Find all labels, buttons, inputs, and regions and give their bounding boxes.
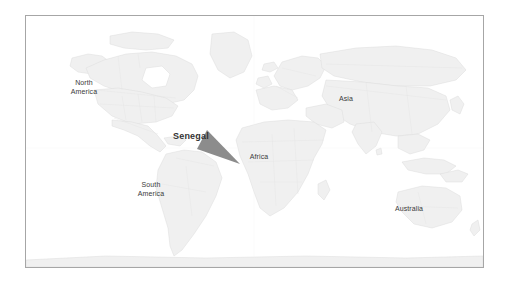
landmasses xyxy=(26,32,483,267)
world-locator-map-figure: North America South America Africa Asia … xyxy=(0,0,510,283)
land-southeast-asia xyxy=(398,134,430,154)
land-new-zealand xyxy=(470,220,480,236)
land-asia xyxy=(322,80,450,136)
world-map-graphic xyxy=(26,16,483,267)
land-mexico xyxy=(112,120,166,152)
land-japan xyxy=(450,96,464,114)
land-arctic-islands xyxy=(110,32,174,50)
land-madagascar xyxy=(318,180,330,200)
land-indonesia xyxy=(402,158,456,174)
map-frame xyxy=(25,15,484,268)
land-iceland xyxy=(262,62,278,72)
land-europe xyxy=(274,56,326,90)
land-british-isles xyxy=(256,76,272,88)
land-sri-lanka xyxy=(376,148,382,155)
land-greenland xyxy=(210,32,252,78)
land-south-america xyxy=(156,150,222,256)
callout-label-senegal: Senegal xyxy=(173,131,209,141)
land-antarctica xyxy=(26,256,483,267)
land-africa xyxy=(236,120,326,216)
